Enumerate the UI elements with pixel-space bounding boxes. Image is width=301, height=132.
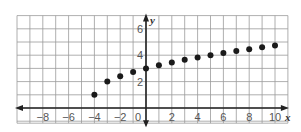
- data-point: [246, 46, 252, 52]
- x-tick-label: 10: [269, 111, 281, 123]
- scatter-chart: −8−6−4−20246810246 x y: [0, 0, 301, 132]
- x-axis-arrow-left-icon: [15, 105, 23, 111]
- data-point: [259, 44, 265, 50]
- x-tick-label: 0: [135, 111, 141, 123]
- data-point: [182, 57, 188, 63]
- x-tick-label: 2: [169, 111, 175, 123]
- data-point: [117, 73, 123, 79]
- data-point: [156, 62, 162, 68]
- y-tick-label: 6: [137, 23, 143, 35]
- y-axis-label: y: [148, 14, 155, 26]
- x-tick-label: −2: [114, 111, 127, 123]
- data-point: [91, 92, 97, 98]
- data-point: [195, 54, 201, 60]
- x-tick-label: 6: [220, 111, 226, 123]
- x-tick-label: 8: [246, 111, 252, 123]
- y-axis-arrow-up-icon: [143, 14, 149, 22]
- data-point: [272, 42, 278, 48]
- x-tick-label: 4: [195, 111, 201, 123]
- data-point: [208, 52, 214, 58]
- data-point: [220, 50, 226, 56]
- x-tick-label: −4: [88, 111, 101, 123]
- y-tick-label: 4: [137, 49, 143, 61]
- x-axis-label: x: [284, 111, 291, 123]
- data-point: [143, 65, 149, 71]
- y-tick-label: 2: [137, 76, 143, 88]
- y-axis-arrow-down-icon: [143, 120, 149, 127]
- grid-lines: [17, 16, 288, 124]
- x-tick-label: −6: [62, 111, 75, 123]
- data-point: [104, 79, 110, 85]
- data-point: [130, 69, 136, 75]
- data-point: [169, 59, 175, 65]
- data-point: [233, 48, 239, 54]
- x-tick-label: −8: [37, 111, 50, 123]
